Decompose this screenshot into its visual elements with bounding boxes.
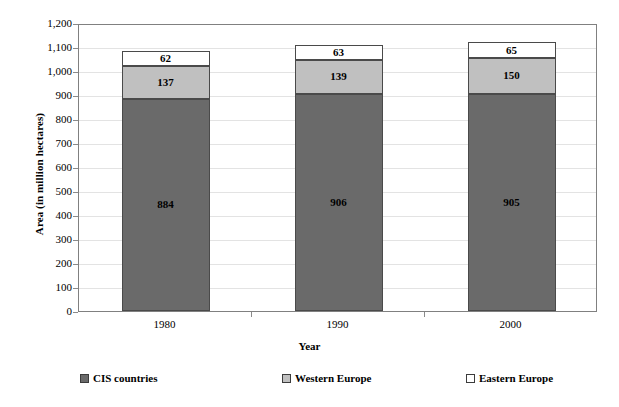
legend-label: Western Europe [295,372,372,384]
bar-value-label: 905 [503,197,520,208]
bar-segment[interactable]: 906 [295,94,383,311]
y-tick-mark [73,48,78,49]
bar-segment[interactable]: 884 [122,99,210,311]
y-tick-mark [73,72,78,73]
bar-group[interactable]: 88413762 [122,23,210,311]
x-axis-title: Year [0,340,619,352]
x-tick-mark [424,312,425,317]
y-tick-label: 1,100 [12,42,72,53]
y-tick-label: 700 [12,138,72,149]
bar-segment[interactable]: 139 [295,60,383,93]
y-tick-mark [73,96,78,97]
legend-label: Eastern Europe [479,372,553,384]
bar-segment[interactable]: 63 [295,45,383,60]
bar-value-label: 62 [160,53,171,64]
legend-item[interactable]: Western Europe [282,372,372,384]
y-tick-label: 900 [12,90,72,101]
y-tick-mark [73,216,78,217]
legend-swatch-icon [282,374,291,383]
bar-group[interactable]: 90613963 [295,23,383,311]
y-tick-label: 1,200 [12,18,72,29]
y-tick-label: 100 [12,282,72,293]
bar-value-label: 137 [157,77,174,88]
x-tick-mark [251,312,252,317]
y-tick-label: 200 [12,258,72,269]
y-tick-label: 500 [12,186,72,197]
legend-item[interactable]: CIS countries [80,372,157,384]
bar-segment[interactable]: 137 [122,66,210,99]
y-tick-mark [73,240,78,241]
y-tick-mark [73,192,78,193]
y-tick-mark [73,120,78,121]
bar-value-label: 65 [506,45,517,56]
legend-swatch-icon [80,374,89,383]
y-tick-mark [73,264,78,265]
y-tick-label: 400 [12,210,72,221]
y-tick-mark [73,288,78,289]
y-tick-label: 1,000 [12,66,72,77]
y-tick-label: 0 [12,306,72,317]
y-tick-mark [73,312,78,313]
bar-value-label: 139 [330,71,347,82]
legend-item[interactable]: Eastern Europe [466,372,553,384]
bar-value-label: 63 [333,47,344,58]
x-tick-label: 1980 [125,318,205,330]
chart-legend: CIS countriesWestern EuropeEastern Europ… [0,372,619,392]
x-tick-label: 1990 [298,318,378,330]
y-tick-label: 600 [12,162,72,173]
y-tick-mark [73,168,78,169]
bar-segment[interactable]: 905 [468,94,556,311]
y-tick-label: 300 [12,234,72,245]
bar-segment[interactable]: 62 [122,51,210,66]
bar-value-label: 150 [503,70,520,81]
plot-area: 884137629061396390515065 [78,24,597,312]
bar-segment[interactable]: 65 [468,42,556,58]
legend-swatch-icon [466,374,475,383]
bar-segment[interactable]: 150 [468,58,556,94]
y-tick-label: 800 [12,114,72,125]
stacked-bar-chart: Area (in million hectares) 8841376290613… [0,0,619,407]
legend-label: CIS countries [93,372,157,384]
bar-value-label: 884 [157,199,174,210]
bar-value-label: 906 [330,197,347,208]
x-tick-label: 2000 [471,318,551,330]
bar-group[interactable]: 90515065 [468,23,556,311]
y-tick-mark [73,24,78,25]
y-tick-mark [73,144,78,145]
